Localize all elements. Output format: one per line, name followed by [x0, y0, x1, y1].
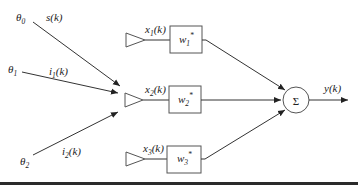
sigma-icon: Σ: [293, 95, 299, 107]
arrow-w1-sum: [206, 40, 285, 90]
x3-k-label: x3(k): [142, 142, 164, 157]
antenna-1-icon: [126, 33, 145, 47]
x1-k-label: x1(k): [144, 23, 166, 38]
antenna-2-icon: [125, 93, 143, 107]
i1-k-label: i1(k): [49, 65, 68, 80]
source-theta1: θ1 i1(k): [8, 63, 118, 93]
i2-k-label: i2(k): [62, 145, 81, 160]
theta2-label: θ2: [20, 155, 29, 170]
arrow-theta1: [22, 72, 118, 93]
antenna-3-icon: [126, 152, 145, 166]
y-k-label: y(k): [323, 82, 341, 95]
theta1-label: θ1: [8, 63, 17, 78]
sensor-1: x1(k) w1*: [126, 23, 285, 90]
arrow-w3-sum: [205, 110, 285, 159]
beamformer-diagram: θ0 s(k) θ1 i1(k) θ2 i2(k) x1(k) w1* x2(k…: [0, 0, 358, 186]
source-theta2: θ2 i2(k): [20, 112, 118, 170]
arrow-theta0: [33, 22, 120, 86]
sensor-2: x2(k) w2*: [125, 83, 281, 113]
x2-k-label: x2(k): [144, 83, 166, 98]
summer: Σ y(k): [283, 82, 348, 113]
bottom-rule: [0, 182, 358, 185]
theta0-label: θ0: [16, 11, 25, 26]
s-k-label: s(k): [46, 11, 63, 24]
sensor-3: x3(k) w3*: [126, 110, 285, 173]
